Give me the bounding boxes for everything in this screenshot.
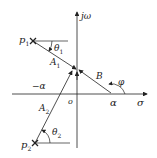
pole-zero-diagram (0, 0, 157, 158)
imag-axis-label: jω (81, 12, 91, 21)
p2-label: p2 (21, 140, 31, 152)
phi-label: φ (118, 78, 124, 87)
b-label: B (96, 72, 103, 81)
theta1-label: θ1 (54, 44, 63, 55)
p1-label: p1 (19, 35, 29, 47)
theta1-arc-icon (49, 41, 52, 51)
zero-alpha-label: α (110, 98, 117, 108)
a2-label: A2 (39, 104, 49, 115)
theta2-arc-icon (42, 130, 50, 143)
a1-label: A1 (50, 58, 60, 69)
real-axis-label: σ (137, 98, 144, 108)
vector-b (79, 70, 111, 93)
theta2-label: θ2 (52, 128, 61, 139)
neg-alpha-label: −α (32, 82, 46, 91)
origin-label: o (68, 98, 73, 106)
